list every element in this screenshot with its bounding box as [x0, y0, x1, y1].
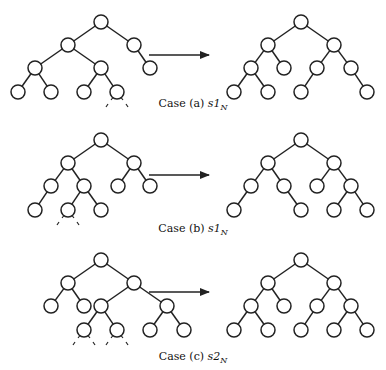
tree-edge	[105, 74, 113, 86]
case-c-after-tree	[227, 253, 374, 337]
tree-edge	[107, 287, 129, 302]
tree-node	[327, 38, 341, 52]
tree-edge	[171, 312, 180, 325]
tree-node	[310, 299, 324, 313]
tree-node	[127, 156, 141, 170]
case-c-caption: Case (c) s2N	[0, 350, 386, 365]
tree-node	[277, 179, 291, 193]
tree-edge	[74, 26, 96, 41]
case-b-after-tree	[227, 133, 374, 217]
tree-edge	[321, 169, 330, 181]
tree-node	[327, 276, 341, 290]
tree-edge	[39, 74, 47, 86]
tree-edge	[74, 49, 96, 64]
tree-edge	[255, 289, 264, 301]
tree-node	[244, 61, 258, 75]
tree-edge	[272, 169, 280, 181]
tree-edge	[307, 26, 329, 41]
tree-node	[61, 156, 75, 170]
tree-node	[310, 61, 324, 75]
tree-edge	[72, 169, 80, 181]
tree-edge	[355, 74, 363, 86]
tree-edge	[255, 74, 264, 87]
tree-node	[344, 179, 358, 193]
tree-node	[127, 38, 141, 52]
tree-node	[261, 38, 275, 52]
tree-edge	[321, 51, 330, 63]
tree-edge	[272, 289, 280, 301]
tree-edge	[55, 289, 64, 301]
tree-node	[294, 203, 308, 217]
omitted-subtree-dash	[73, 342, 75, 345]
tree-node	[94, 299, 108, 313]
tree-edge	[140, 287, 162, 302]
tree-edge	[88, 312, 97, 325]
case-b-caption-symbol: s1	[208, 222, 221, 235]
tree-edge	[255, 51, 264, 63]
tree-node	[143, 61, 157, 75]
tree-edge	[22, 74, 31, 87]
tree-edge	[238, 192, 247, 205]
tree-edge	[338, 312, 347, 325]
tree-node	[344, 61, 358, 75]
tree-node	[327, 203, 341, 217]
case-c-caption-prefix: Case (c)	[159, 350, 204, 363]
tree-node	[127, 276, 141, 290]
tree-node	[327, 323, 341, 337]
tree-edge	[55, 169, 64, 181]
tree-node	[277, 299, 291, 313]
tree-edge	[355, 192, 363, 204]
tree-node	[77, 323, 91, 337]
omitted-subtree-dash	[93, 342, 95, 345]
tree-node	[94, 253, 108, 267]
tree-node	[160, 299, 174, 313]
case-a-caption: Case (a) s1N	[0, 97, 386, 112]
case-b-caption: Case (b) s1N	[0, 222, 386, 237]
tree-node	[327, 156, 341, 170]
tree-edge	[274, 144, 296, 159]
tree-edge	[107, 26, 129, 41]
tree-node	[294, 133, 308, 147]
tree-edge	[105, 312, 113, 324]
tree-node	[227, 323, 241, 337]
case-a-before-tree	[11, 15, 157, 107]
tree-node	[61, 38, 75, 52]
tree-edge	[255, 169, 264, 181]
tree-edge	[74, 264, 96, 279]
case-a-caption-prefix: Case (a)	[159, 97, 205, 110]
tree-edge	[338, 169, 347, 181]
tree-edge	[274, 26, 296, 41]
tree-node	[294, 15, 308, 29]
tree-edge	[238, 74, 247, 87]
tree-edge	[107, 264, 129, 279]
tree-edge	[338, 192, 347, 205]
case-a-caption-symbol: s1	[208, 97, 221, 110]
tree-edge	[74, 144, 96, 159]
tree-edge	[122, 169, 130, 181]
case-c-caption-symbol: s2	[208, 350, 221, 363]
tree-edge	[88, 74, 97, 87]
tree-edge	[88, 192, 97, 205]
tree-node	[28, 203, 42, 217]
tree-edge	[321, 289, 330, 301]
case-b-before-tree	[28, 133, 157, 225]
tree-edge	[307, 264, 329, 279]
tree-node	[111, 179, 125, 193]
tree-node	[310, 179, 324, 193]
omitted-subtree-dash	[106, 342, 108, 345]
tree-node	[294, 253, 308, 267]
tree-node	[277, 61, 291, 75]
tree-node	[177, 323, 191, 337]
case-a-after-tree	[227, 15, 374, 99]
tree-edge	[305, 74, 313, 86]
tree-edge	[355, 312, 363, 324]
tree-edge	[41, 49, 63, 64]
tree-edge	[305, 312, 313, 324]
tree-edge	[255, 312, 264, 325]
tree-node	[261, 156, 275, 170]
tree-node	[94, 203, 108, 217]
tree-node	[44, 179, 58, 193]
tree-edge	[307, 144, 329, 159]
tree-edge	[338, 51, 347, 63]
tree-node	[244, 179, 258, 193]
